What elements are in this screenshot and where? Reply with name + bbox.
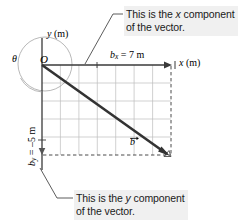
callout-y-component-line2: of the vector.: [76, 205, 185, 218]
x-axis-label: x (m): [179, 57, 200, 68]
origin-label: O: [40, 53, 48, 65]
by-subscript: y: [29, 158, 38, 161]
y-axis-label: y (m): [47, 28, 68, 39]
x-axis-label-unit: (m): [183, 57, 200, 68]
y-callout-leader-line: [40, 168, 73, 198]
callout-x-component-line2: of the vector.: [126, 21, 235, 34]
vector-components-figure: This is the x component of the vector. T…: [0, 0, 247, 221]
callout-x-component-line1: This is the x component: [126, 8, 235, 21]
bx-label: bx = 7 m: [110, 49, 144, 61]
by-arrowhead: [39, 148, 46, 155]
vector-b-label: b: [130, 136, 135, 147]
callout-y-component-line1: This is the y component: [76, 192, 185, 205]
by-label: by = –5 m: [26, 127, 38, 166]
vector-arrow-icon: [130, 136, 139, 140]
by-symbol: b: [26, 161, 37, 166]
callout-x-component: This is the x component of the vector.: [124, 6, 238, 36]
bx-value: = 7 m: [118, 49, 144, 60]
y-axis-label-unit: (m): [51, 28, 68, 39]
vector-b: [42, 65, 170, 156]
by-value: = –5 m: [26, 127, 37, 158]
theta-label: θ: [12, 53, 17, 64]
callout-y-component: This is the y component of the vector.: [74, 190, 188, 220]
